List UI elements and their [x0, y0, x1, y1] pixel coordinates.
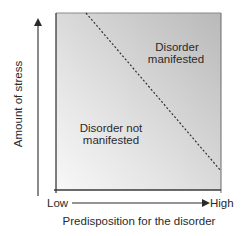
y-axis-label: Amount of stress	[12, 61, 24, 148]
x-axis-low-label: Low	[47, 197, 69, 209]
diathesis-stress-diagram: Amount of stress Disorder manifested Dis…	[0, 0, 241, 236]
region-upper-label-line1: Disorder	[155, 41, 199, 53]
region-lower-label-line1: Disorder not	[80, 122, 143, 134]
x-axis-high-label: High	[210, 197, 234, 209]
x-axis-label: Predisposition for the disorder	[63, 215, 216, 227]
region-lower-label-line2: manifested	[83, 134, 139, 146]
plot-area	[56, 13, 221, 190]
region-upper-label-line2: manifested	[148, 53, 204, 65]
